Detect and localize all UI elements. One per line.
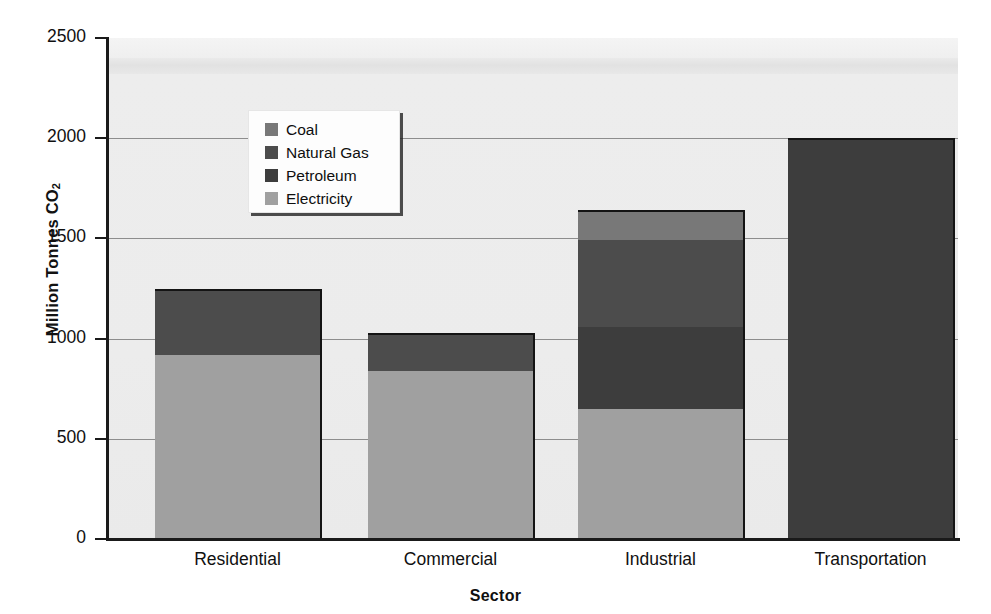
y-tick-mark <box>95 37 107 39</box>
y-axis-line <box>106 37 109 540</box>
bar-segment-electricity <box>155 355 320 539</box>
legend-item-electricity[interactable]: Electricity <box>265 187 399 210</box>
x-category-label-transportation: Transportation <box>758 549 983 570</box>
bar-top-edge <box>368 333 533 335</box>
y-tick-label: 1500 <box>22 226 86 247</box>
legend-swatch-icon <box>265 146 278 159</box>
legend-items: CoalNatural GasPetroleumElectricity <box>265 118 399 210</box>
y-tick-label: 500 <box>22 427 86 448</box>
y-tick-mark <box>95 237 107 239</box>
bar-top-edge <box>788 138 953 140</box>
legend-swatch-icon <box>265 169 278 182</box>
legend-label: Electricity <box>286 191 352 207</box>
legend-label: Petroleum <box>286 168 357 184</box>
legend-label: Natural Gas <box>286 145 369 161</box>
bar-segment-coal <box>578 210 743 240</box>
y-tick-mark <box>95 338 107 340</box>
bar-top-edge <box>578 210 743 212</box>
legend-item-petroleum[interactable]: Petroleum <box>265 164 399 187</box>
y-tick-label: 2000 <box>22 126 86 147</box>
bar-segment-natural-gas <box>155 289 320 355</box>
y-tick-label: 2500 <box>22 26 86 47</box>
chart-root: Million Tonnes CO2 25002000150010005000 … <box>0 0 991 614</box>
x-axis-line <box>106 538 960 541</box>
y-axis-title: Million Tonnes CO2 <box>43 110 62 410</box>
x-category-label-residential: Residential <box>125 549 350 570</box>
bar-segment-natural-gas <box>578 240 743 326</box>
bar-segment-electricity <box>368 371 533 539</box>
bar-segment-electricity <box>578 409 743 539</box>
scan-artifact-band <box>109 58 958 74</box>
legend-swatch-icon <box>265 192 278 205</box>
legend-box: CoalNatural GasPetroleumElectricity <box>248 110 400 213</box>
y-axis-title-subscript: 2 <box>50 183 62 189</box>
x-category-label-industrial: Industrial <box>548 549 773 570</box>
y-tick-label: 0 <box>22 527 86 548</box>
bar-segment-petroleum <box>788 138 953 539</box>
legend-item-natural-gas[interactable]: Natural Gas <box>265 141 399 164</box>
y-axis-title-text: Million Tonnes CO <box>43 189 61 336</box>
y-tick-mark <box>95 538 107 540</box>
bar-segment-natural-gas <box>368 333 533 371</box>
bar-top-edge <box>155 289 320 291</box>
bar-transportation <box>788 138 955 539</box>
plot-area <box>109 38 958 539</box>
y-tick-mark <box>95 137 107 139</box>
bar-residential <box>155 289 322 540</box>
bar-segment-petroleum <box>578 327 743 409</box>
legend-swatch-icon <box>265 123 278 136</box>
x-axis-title: Sector <box>0 587 991 605</box>
y-tick-label: 1000 <box>22 327 86 348</box>
bar-industrial <box>578 210 745 539</box>
legend-label: Coal <box>286 122 318 138</box>
legend-item-coal[interactable]: Coal <box>265 118 399 141</box>
y-tick-mark <box>95 438 107 440</box>
x-category-label-commercial: Commercial <box>338 549 563 570</box>
scan-artifact-band <box>109 38 958 58</box>
bar-commercial <box>368 333 535 539</box>
